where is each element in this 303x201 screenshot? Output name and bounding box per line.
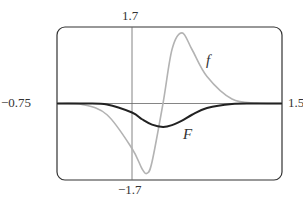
y-min-tick-label: −1.7 (118, 182, 142, 198)
x-max-tick-label: 1.5 (288, 95, 303, 111)
series-f-label: f (206, 52, 210, 69)
y-max-tick-label: 1.7 (122, 8, 138, 24)
series-F-label: F (183, 126, 192, 143)
x-min-tick-label: −0.75 (1, 95, 31, 111)
chart-canvas (0, 0, 303, 201)
